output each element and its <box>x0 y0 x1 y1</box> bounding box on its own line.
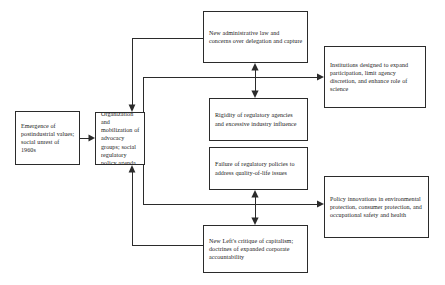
rigidity-box: Rigidity of regulatory agencies and exce… <box>209 98 308 141</box>
administrative-law-box: New administrative law and concerns over… <box>203 11 308 63</box>
connector-new-left-to-organization <box>129 165 203 245</box>
failure-box-label: Failure of regulatory policies to addres… <box>210 160 307 176</box>
failure-box: Failure of regulatory policies to addres… <box>209 147 308 190</box>
administrative-law-box-label: New administrative law and concerns over… <box>204 29 307 45</box>
connector-failure-new-left <box>251 190 258 225</box>
organization-box: Organization and mobilization of advocac… <box>95 112 145 165</box>
origins-box-label: Emergence of postindustrial values; soci… <box>16 122 79 154</box>
connector-origins-to-organization <box>80 135 95 142</box>
policy-innovations-box-label: Policy innovations in environmental prot… <box>325 195 428 219</box>
institutions-box: Institutions designed to expand particip… <box>324 46 426 108</box>
rigidity-box-label: Rigidity of regulatory agencies and exce… <box>210 111 307 127</box>
institutions-box-label: Institutions designed to expand particip… <box>325 61 425 93</box>
connector-admin-law-rigidity <box>251 63 258 98</box>
organization-box-label: Organization and mobilization of advocac… <box>96 112 144 165</box>
new-left-box-label: New Left's critique of capitalism; doctr… <box>204 237 307 261</box>
connector-admin-law-to-organization <box>129 38 203 112</box>
origins-box: Emergence of postindustrial values; soci… <box>15 111 80 165</box>
policy-innovations-box: Policy innovations in environmental prot… <box>324 176 429 238</box>
new-left-box: New Left's critique of capitalism; doctr… <box>203 225 308 273</box>
flowchart-diagram: Emergence of postindustrial values; soci… <box>0 0 445 285</box>
